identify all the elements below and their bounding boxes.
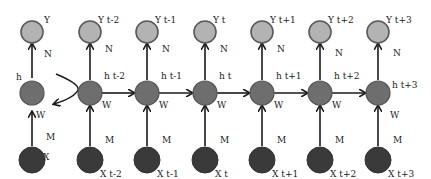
input-label: X t+3 <box>388 169 414 179</box>
unfold-arrow-icon <box>54 74 78 104</box>
hidden-node <box>78 81 102 105</box>
output-label: Y t+2 <box>327 15 354 25</box>
n-weight-label: N <box>335 48 343 58</box>
n-weight-label: N <box>277 44 285 54</box>
m-weight-label: M <box>335 135 344 145</box>
hidden-node <box>193 81 217 105</box>
m-weight-label: M <box>162 135 171 145</box>
w-weight-label: W <box>217 100 227 110</box>
n-weight-label: N <box>393 48 401 58</box>
input-label: X t <box>215 169 228 179</box>
w-weight-label: W <box>390 110 400 120</box>
hidden-node <box>250 81 274 105</box>
m-weight-label: M <box>220 135 229 145</box>
input-label: X t-2 <box>100 169 122 179</box>
hidden-label: h t-2 <box>104 71 125 81</box>
input-label: X t+2 <box>330 169 356 179</box>
folded-n-weight-label: N <box>44 49 52 59</box>
folded-m-weight-label: M <box>46 132 55 142</box>
input-label: X t-1 <box>157 169 179 179</box>
folded-output-node <box>21 21 43 43</box>
m-weight-label: M <box>277 135 286 145</box>
n-weight-label: N <box>105 44 113 54</box>
hidden-label: h t+3 <box>392 80 418 90</box>
hidden-label: h t-1 <box>161 71 182 81</box>
hidden-node <box>135 81 159 105</box>
m-weight-label: M <box>105 135 114 145</box>
folded-output-label: Y <box>43 15 51 25</box>
hidden-label: h t <box>219 71 232 81</box>
hidden-node <box>366 81 390 105</box>
input-label: X t+1 <box>272 169 298 179</box>
output-label: Y t-2 <box>97 15 119 25</box>
folded-network: Y N h W M X <box>16 15 78 173</box>
output-label: Y t+3 <box>385 15 412 25</box>
output-label: Y t-1 <box>154 15 176 25</box>
w-weight-label: W <box>274 100 284 110</box>
w-weight-label: W <box>159 100 169 110</box>
unfolded-steps: Y t-2Nh t-2WMX t-2Y t-1Nh t-1WMX t-1Y tN… <box>77 15 418 179</box>
folded-hidden-node <box>20 81 44 105</box>
hidden-label: h t+1 <box>276 71 302 81</box>
w-weight-label: W <box>102 100 112 110</box>
n-weight-label: N <box>162 44 170 54</box>
rnn-unfolded-diagram: Y N h W M X Y t-2Nh t-2WMX t-2Y t-1Nh t-… <box>0 0 431 179</box>
hidden-label: h t+2 <box>334 71 360 81</box>
folded-hidden-label: h <box>16 72 22 82</box>
w-weight-label: W <box>332 100 342 110</box>
output-label: Y t <box>212 15 226 25</box>
hidden-node <box>308 81 332 105</box>
folded-w-weight-label: W <box>36 110 46 120</box>
folded-input-label: X <box>43 152 50 162</box>
output-label: Y t+1 <box>269 15 296 25</box>
m-weight-label: M <box>393 135 402 145</box>
folded-input-node <box>19 147 45 173</box>
n-weight-label: N <box>220 44 228 54</box>
